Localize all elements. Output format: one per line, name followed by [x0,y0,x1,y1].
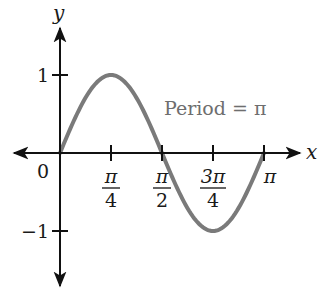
x-tick-label: π4 [102,165,120,211]
svg-text:π: π [263,165,277,187]
sine-graph: π4π23π4π 1−1 y x 0 Period = π [0,0,330,296]
x-tick-label: 3π4 [200,165,226,211]
x-ticks: π4π23π4π [102,145,277,211]
x-tick-label: π [263,165,277,187]
svg-text:4: 4 [207,189,219,211]
svg-text:3π: 3π [201,165,226,187]
y-tick-label: −1 [21,220,49,242]
period-annotation: Period = π [164,97,266,119]
svg-text:2: 2 [156,189,168,211]
plot-area: π4π23π4π 1−1 y x 0 Period = π [0,0,330,296]
svg-text:π: π [104,165,118,187]
y-tick-label: 1 [37,64,49,86]
svg-text:4: 4 [105,189,117,211]
svg-text:π: π [155,165,169,187]
origin-label: 0 [37,160,49,182]
y-axis-label: y [52,1,65,25]
x-axis-label: x [306,140,317,164]
